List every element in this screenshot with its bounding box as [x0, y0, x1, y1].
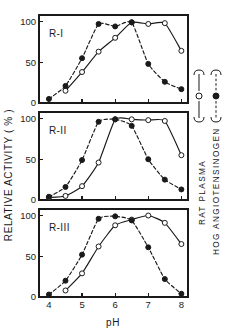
- data-point-open: [129, 117, 134, 122]
- data-point-filled: [146, 157, 151, 162]
- y-tick-label: 100: [20, 16, 36, 27]
- data-point-open: [179, 48, 184, 53]
- data-point-open: [162, 21, 167, 26]
- data-point-open: [162, 220, 167, 225]
- data-point-open: [96, 49, 101, 54]
- data-point-open: [179, 153, 184, 158]
- data-point-filled: [113, 117, 118, 122]
- data-point-filled: [146, 245, 151, 250]
- data-point-open: [63, 193, 68, 198]
- y-tick-label: 100: [20, 113, 36, 124]
- data-point-filled: [80, 252, 85, 257]
- y-tick-label: 0: [31, 194, 36, 205]
- y-tick-label: 50: [25, 154, 36, 165]
- data-point-filled: [162, 177, 167, 182]
- side-label-rat-plasma: RAT PLASMA: [198, 160, 207, 225]
- panel-label-r-iii: R-III: [49, 222, 70, 233]
- data-point-filled: [80, 158, 85, 163]
- data-point-filled: [129, 20, 134, 25]
- data-point-open: [113, 35, 118, 40]
- y-tick-label: 50: [25, 251, 36, 262]
- data-point-filled: [80, 56, 85, 61]
- data-point-open: [146, 21, 151, 26]
- data-point-open: [80, 184, 85, 189]
- data-point-open: [179, 242, 184, 247]
- data-point-filled: [96, 21, 101, 26]
- data-point-filled: [46, 96, 51, 101]
- data-point-filled: [96, 119, 101, 124]
- panel-label-r-i: R-I: [49, 28, 64, 39]
- data-point-filled: [162, 277, 167, 282]
- x-tick-label: 5: [79, 299, 84, 310]
- data-point-filled: [63, 184, 68, 189]
- data-point-open: [113, 223, 118, 228]
- data-point-open: [162, 118, 167, 123]
- data-point-filled: [63, 278, 68, 283]
- y-tick-label: 0: [31, 97, 36, 108]
- data-point-filled: [179, 187, 184, 192]
- data-point-filled: [96, 216, 101, 221]
- data-point-filled: [129, 218, 134, 223]
- x-axis-label: pH: [106, 317, 120, 328]
- data-point-filled: [63, 83, 68, 88]
- x-tick-label: 8: [179, 299, 184, 310]
- data-point-open: [63, 88, 68, 93]
- data-point-open: [80, 271, 85, 276]
- legend-open-circle-icon: [196, 93, 202, 99]
- y-tick-label: 50: [25, 57, 36, 68]
- data-point-filled: [162, 79, 167, 84]
- data-point-open: [80, 70, 85, 75]
- x-tick-label: 4: [46, 299, 51, 310]
- figure-container: 050100R-I050100R-II05010045678R-III RELA…: [0, 0, 236, 330]
- legend-filled-circle-icon: [213, 93, 219, 99]
- data-point-open: [63, 288, 68, 293]
- data-point-filled: [46, 292, 51, 297]
- data-point-filled: [129, 123, 134, 128]
- data-point-filled: [46, 194, 51, 199]
- side-label-hog-angiotensinogen: HOG ANGIOTENSINOGEN: [212, 127, 221, 255]
- data-point-filled: [113, 214, 118, 219]
- data-point-filled: [146, 61, 151, 66]
- data-point-open: [96, 160, 101, 165]
- data-point-open: [146, 213, 151, 218]
- y-axis-label: RELATIVE ACTIVITY ( % ): [3, 109, 14, 241]
- panel-label-r-ii: R-II: [49, 125, 67, 136]
- data-point-open: [96, 244, 101, 249]
- data-point-filled: [113, 24, 118, 29]
- data-point-filled: [179, 87, 184, 92]
- ph-activity-figure: 050100R-I050100R-II05010045678R-III RELA…: [0, 0, 236, 330]
- y-tick-label: 0: [31, 291, 36, 302]
- x-tick-label: 7: [146, 299, 151, 310]
- data-point-open: [146, 118, 151, 123]
- x-tick-label: 6: [113, 299, 118, 310]
- data-point-filled: [179, 291, 184, 296]
- y-tick-label: 100: [20, 210, 36, 221]
